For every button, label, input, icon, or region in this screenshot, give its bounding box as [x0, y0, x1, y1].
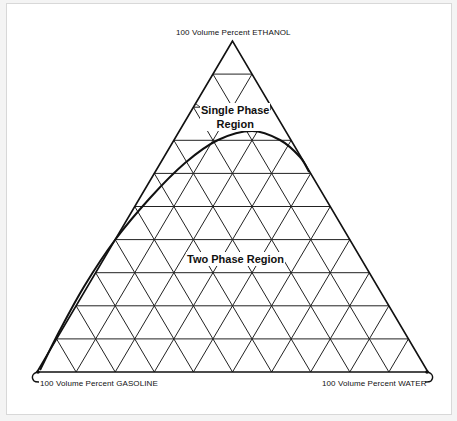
phase-boundary-curve: [40, 131, 309, 370]
single-phase-label-line2: Region: [201, 117, 269, 131]
gasoline-corner-dot-icon: [36, 370, 40, 374]
gasoline-vertex-label: 100 Volume Percent GASOLINE: [40, 379, 158, 388]
grid-line: [135, 207, 233, 373]
water-corner-dot-icon: [425, 370, 429, 374]
two-phase-region-label: Two Phase Region: [186, 252, 285, 266]
grid-line: [311, 273, 370, 372]
ethanol-vertex-label: 100 Volume Percent ETHANOL: [176, 28, 291, 37]
grid-line: [96, 273, 155, 372]
single-phase-region-label: Single Phase Region: [200, 103, 270, 131]
ternary-diagram: [0, 0, 457, 421]
single-phase-label-line1: Single Phase: [201, 103, 269, 117]
water-vertex-label: 100 Volume Percent WATER: [322, 379, 427, 388]
grid-line: [57, 339, 77, 372]
grid-line: [389, 339, 409, 372]
grid-line: [233, 207, 331, 373]
